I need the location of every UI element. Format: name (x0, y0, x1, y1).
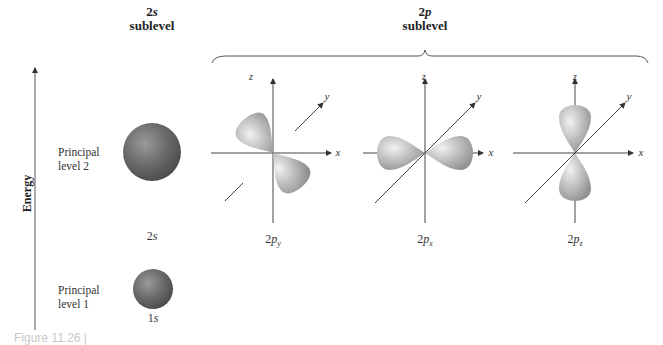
axis-label-y-py: y (322, 90, 332, 102)
axis-label-z-pz: z (570, 71, 580, 82)
axis-label-x-py: x (333, 146, 343, 158)
principal-level-2-label: Principal level 2 (58, 145, 100, 173)
figure-caption: Figure 11.26 | (14, 331, 87, 345)
orbital-2pz-label: 2pz (545, 232, 605, 248)
p-header-letter: p (425, 4, 432, 19)
orbital-2py (211, 79, 331, 223)
s-header-letter: s (153, 4, 158, 19)
principal-level-2-line1: Principal (58, 145, 100, 159)
energy-label: Energy (20, 171, 35, 217)
orbital-2s-sphere (123, 123, 181, 181)
principal-level-1-label: Principal level 1 (58, 283, 100, 311)
principal-level-2-line2: level 2 (58, 159, 100, 173)
orbital-2s-letter: s (153, 229, 158, 243)
orbital-2px-subscript: x (429, 239, 433, 248)
s-sublevel-header: 2s sublevel (122, 5, 182, 33)
axis-label-x-px: x (486, 146, 496, 158)
axis-label-z-px: z (419, 71, 429, 82)
axis-label-x-pz: x (636, 146, 646, 158)
orbital-1s-sphere (133, 269, 173, 309)
principal-level-1-line1: Principal (58, 283, 100, 297)
axis-label-y-px: y (474, 90, 484, 102)
orbital-2py-label: 2py (243, 232, 303, 248)
orbital-2px (363, 79, 483, 223)
orbital-2px-label: 2px (395, 232, 455, 248)
orbital-2pz (513, 79, 633, 223)
orbital-2py-subscript: y (277, 239, 281, 248)
axis-label-y-pz: y (624, 90, 634, 102)
principal-level-1-line2: level 1 (58, 297, 100, 311)
p-sublevel-brace (212, 50, 648, 63)
p-sublevel-header: 2p sublevel (395, 5, 455, 33)
orbital-2pz-subscript: z (579, 239, 582, 248)
orbital-2s-label: 2s (122, 229, 182, 244)
orbital-1s-letter: s (154, 311, 159, 325)
p-header-word: sublevel (395, 19, 455, 33)
s-header-word: sublevel (122, 19, 182, 33)
axis-label-z-py: z (246, 71, 256, 82)
orbital-1s-label: 1s (123, 311, 183, 326)
